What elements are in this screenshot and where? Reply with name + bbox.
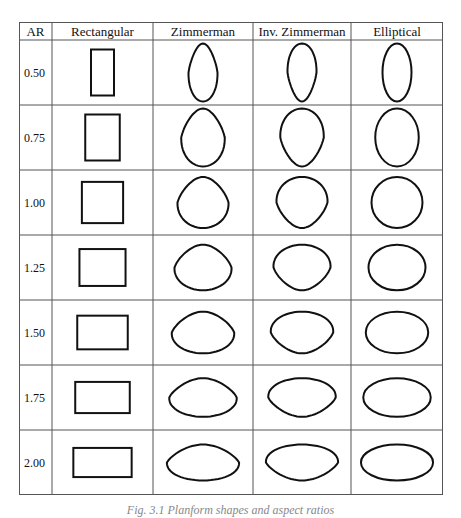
column-header: Zimmerman xyxy=(171,24,236,39)
figure-caption: Fig. 3.1 Planform shapes and aspect rati… xyxy=(0,503,461,518)
elliptical-planform xyxy=(383,44,412,102)
zimmerman-planform xyxy=(178,177,229,228)
aspect-ratio-label: 1.75 xyxy=(24,391,45,405)
planform-table: ARRectangularZimmermanInv. ZimmermanElli… xyxy=(19,22,444,498)
aspect-ratio-label: 1.25 xyxy=(24,261,45,275)
column-header: Inv. Zimmerman xyxy=(258,24,346,39)
inv-zimmerman-planform xyxy=(268,378,335,417)
aspect-ratio-label: 0.75 xyxy=(24,131,45,145)
elliptical-planform xyxy=(372,177,423,228)
rectangular-planform xyxy=(85,115,120,161)
rectangular-planform xyxy=(75,382,130,413)
aspect-ratio-label: 2.00 xyxy=(24,456,45,470)
column-header: AR xyxy=(26,24,44,39)
inv-zimmerman-planform xyxy=(266,445,338,481)
column-header: Rectangular xyxy=(71,24,134,39)
aspect-ratio-label: 1.00 xyxy=(24,196,45,210)
zimmerman-planform xyxy=(181,109,225,167)
inv-zimmerman-planform xyxy=(288,44,317,102)
rectangular-planform xyxy=(77,316,127,350)
aspect-ratio-label: 0.50 xyxy=(24,66,45,80)
rectangular-planform xyxy=(91,50,114,96)
elliptical-planform xyxy=(361,444,433,480)
elliptical-planform xyxy=(368,245,425,291)
zimmerman-planform xyxy=(169,378,236,417)
zimmerman-planform xyxy=(189,44,218,102)
table-border xyxy=(20,23,443,495)
zimmerman-planform xyxy=(175,245,232,291)
elliptical-planform xyxy=(366,312,428,354)
column-header: Elliptical xyxy=(373,24,421,39)
zimmerman-planform xyxy=(172,312,234,354)
rectangular-planform xyxy=(82,182,123,223)
inv-zimmerman-planform xyxy=(274,245,331,291)
elliptical-planform xyxy=(363,378,430,417)
elliptical-planform xyxy=(375,109,419,167)
rectangular-planform xyxy=(79,249,125,286)
inv-zimmerman-planform xyxy=(277,177,328,228)
aspect-ratio-label: 1.50 xyxy=(24,326,45,340)
inv-zimmerman-planform xyxy=(280,109,324,167)
inv-zimmerman-planform xyxy=(271,312,333,354)
rectangular-planform xyxy=(73,448,131,477)
zimmerman-planform xyxy=(167,445,239,481)
